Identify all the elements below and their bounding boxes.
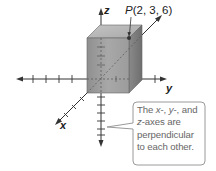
rectangular-prism <box>87 25 142 93</box>
callout-line-1: The x-, y-, and <box>137 104 207 116</box>
callout-rest: -axes are <box>142 116 181 127</box>
callout-sep: -, <box>161 104 169 115</box>
y-axis-label: y <box>166 83 172 94</box>
box-front-face <box>87 38 129 93</box>
x-axis-label: x <box>60 120 66 131</box>
callout-text: The x-, y-, and z-axes are perpendicular… <box>137 104 207 154</box>
point-coords: (2, 3, 6) <box>133 4 173 16</box>
callout-line-2: z-axes are <box>137 116 207 128</box>
callout-line-3: perpendicular <box>137 129 207 141</box>
callout-sep: -, and <box>173 104 197 115</box>
callout-line-4: to each other. <box>137 141 207 153</box>
point-p-label: P(2, 3, 6) <box>125 5 172 17</box>
z-axis-label: z <box>104 5 110 16</box>
point-name: P <box>125 4 133 16</box>
